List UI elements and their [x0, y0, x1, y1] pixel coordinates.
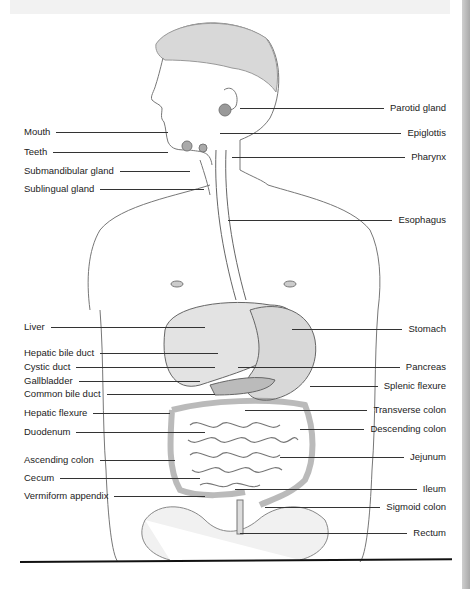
leader-line: [240, 533, 407, 534]
leader-line: [292, 329, 402, 330]
submandibular-gland-shape: [182, 141, 192, 151]
label-transverse-colon: Transverse colon: [373, 404, 446, 415]
label-pharynx: Pharynx: [411, 151, 446, 162]
label-parotid-gland: Parotid gland: [390, 102, 446, 113]
label-jejunum: Jejunum: [410, 451, 446, 462]
rectum: [237, 500, 243, 534]
label-sigmoid-colon: Sigmoid colon: [386, 501, 446, 512]
leader-line: [53, 152, 168, 153]
leader-line: [114, 496, 205, 497]
label-teeth: Teeth: [24, 146, 47, 157]
leader-line: [100, 189, 204, 190]
leader-line: [235, 489, 417, 490]
leader-line: [238, 367, 400, 368]
label-duodenum: Duodenum: [24, 426, 70, 437]
parotid-gland: [219, 104, 231, 116]
label-hepatic-bile-duct: Hepatic bile duct: [24, 347, 94, 358]
leader-line: [265, 507, 380, 508]
label-rectum: Rectum: [413, 527, 446, 538]
label-gallbladder: Gallbladder: [24, 375, 73, 386]
leader-line: [107, 394, 215, 395]
label-submandibular-gland: Submandibular gland: [24, 165, 114, 176]
leader-line: [60, 478, 200, 479]
leader-line: [300, 429, 364, 430]
leader-line: [76, 432, 205, 433]
leader-line: [56, 132, 168, 133]
leader-line: [93, 413, 170, 414]
label-ascending-colon: Ascending colon: [24, 454, 94, 465]
leader-line: [100, 460, 175, 461]
leader-line: [220, 133, 401, 134]
label-mouth: Mouth: [24, 126, 50, 137]
leader-line: [120, 171, 190, 172]
leader-line: [79, 381, 200, 382]
leader-line: [310, 386, 378, 387]
label-cecum: Cecum: [24, 472, 54, 483]
label-descending-colon: Descending colon: [370, 423, 446, 434]
label-pancreas: Pancreas: [406, 361, 446, 372]
leader-line: [51, 327, 205, 328]
label-liver: Liver: [24, 321, 45, 332]
leader-line: [228, 220, 392, 221]
leader-line: [240, 108, 384, 109]
label-vermiform-appendix: Vermiform appendix: [24, 490, 108, 501]
label-ileum: Ileum: [423, 483, 446, 494]
label-splenic-flexure: Splenic flexure: [384, 380, 446, 391]
label-esophagus: Esophagus: [398, 214, 446, 225]
label-sublingual-gland: Sublingual gland: [24, 183, 94, 194]
label-epiglottis: Epiglottis: [407, 127, 446, 138]
leader-line: [245, 410, 367, 411]
label-common-bile-duct: Common bile duct: [24, 388, 101, 399]
sublingual-gland-shape: [199, 144, 207, 152]
label-cystic-duct: Cystic duct: [24, 361, 70, 372]
esophagus: [216, 150, 246, 300]
leader-line: [100, 353, 218, 354]
hair: [156, 23, 278, 92]
leader-line: [232, 157, 405, 158]
leader-line: [280, 457, 404, 458]
label-stomach: Stomach: [409, 323, 447, 334]
leader-line: [76, 367, 215, 368]
label-hepatic-flexure: Hepatic flexure: [24, 407, 87, 418]
